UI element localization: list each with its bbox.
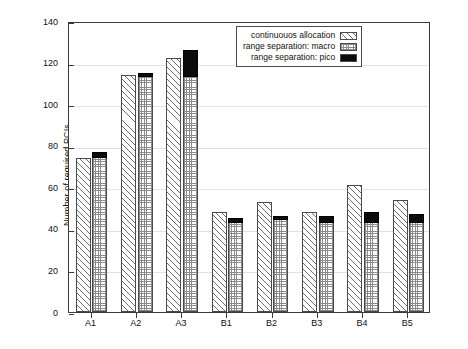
y-axis-tick [69, 314, 74, 315]
bar-range-separation-macro [183, 75, 198, 312]
legend-item: range separation: pico [243, 52, 357, 63]
y-axis-tick-label: 20 [12, 267, 58, 276]
bar-range-separation-macro [273, 218, 288, 312]
bar-continuous-allocation [76, 158, 91, 312]
bar-range-separation-pico [228, 218, 243, 222]
y-axis-tick [69, 148, 74, 149]
chart-legend: continuouos allocationrange separation: … [236, 26, 362, 67]
bar-range-separation-macro [228, 221, 243, 312]
y-axis-tick [69, 106, 74, 107]
x-axis-tick-labels: A1A2A3B1B2B3B4B5 [68, 318, 430, 338]
bar-range-separation-pico [92, 152, 107, 158]
bar-range-separation-macro [409, 221, 424, 312]
bar-range-separation-pico [319, 216, 334, 222]
y-axis-tick [69, 189, 74, 190]
bar-range-separation-pico [364, 212, 379, 222]
legend-label: continuouos allocation [251, 30, 335, 41]
bar-range-separation-macro [364, 221, 379, 312]
y-axis-tick-label: 80 [12, 142, 58, 151]
x-axis-tick-label: B3 [295, 318, 339, 328]
x-axis-tick-label: B1 [204, 318, 248, 328]
legend-label: range separation: macro [243, 41, 335, 52]
x-axis-tick-label: B4 [340, 318, 384, 328]
y-axis-tick-labels: 020406080100120140 [0, 0, 64, 349]
bar-range-separation-pico [409, 214, 424, 222]
bar-chart-figure: Number of required PCIs 0204060801001201… [0, 0, 468, 349]
legend-item: range separation: macro [243, 41, 357, 52]
y-axis-tick-label: 140 [12, 18, 58, 27]
y-axis-tick-label: 60 [12, 184, 58, 193]
x-axis-tick-label: A3 [159, 318, 203, 328]
diagonal-hatch-swatch [340, 32, 357, 40]
y-axis-tick-label: 120 [12, 59, 58, 68]
legend-label: range separation: pico [251, 52, 335, 63]
bar-continuous-allocation [257, 202, 272, 312]
legend-item: continuouos allocation [243, 30, 357, 41]
x-axis-tick-label: A1 [69, 318, 113, 328]
bar-range-separation-macro [319, 221, 334, 312]
crosshatch-swatch [340, 43, 357, 51]
bar-range-separation-macro [138, 75, 153, 312]
y-axis-tick [69, 272, 74, 273]
bar-continuous-allocation [393, 200, 408, 312]
y-axis-tick-label: 100 [12, 101, 58, 110]
x-axis-tick-label: A2 [114, 318, 158, 328]
y-axis-tick-label: 40 [12, 225, 58, 234]
solid-black-swatch [340, 54, 357, 62]
bar-range-separation-macro [92, 156, 107, 312]
y-axis-tick [69, 23, 74, 24]
bar-continuous-allocation [166, 58, 181, 312]
bar-continuous-allocation [212, 212, 227, 312]
y-axis-tick-label: 0 [12, 309, 58, 318]
x-axis-tick-label: B2 [250, 318, 294, 328]
bar-continuous-allocation [121, 75, 136, 312]
y-axis-tick [69, 65, 74, 66]
bar-range-separation-pico [273, 216, 288, 220]
y-axis-tick [69, 231, 74, 232]
bar-range-separation-pico [183, 50, 198, 77]
bar-range-separation-pico [138, 73, 153, 77]
bar-continuous-allocation [302, 212, 317, 312]
bar-continuous-allocation [347, 185, 362, 312]
x-axis-tick-label: B5 [385, 318, 429, 328]
